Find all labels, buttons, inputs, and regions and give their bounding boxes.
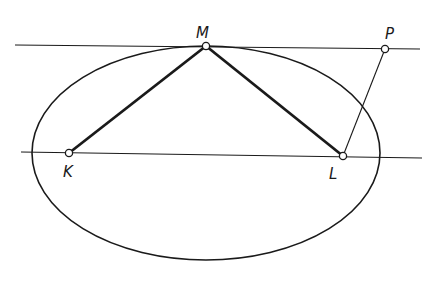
point-K-marker (65, 149, 72, 156)
lower-line-through-foci (21, 152, 422, 158)
segment-ML (206, 46, 343, 156)
segment-KM (69, 46, 206, 153)
point-L-marker (339, 152, 346, 159)
point-M-label: M (196, 24, 209, 42)
point-P-label: P (385, 25, 395, 43)
point-P-marker (381, 45, 388, 52)
point-M-marker (202, 42, 209, 49)
point-L-label: L (329, 165, 337, 183)
point-K-label: K (63, 163, 74, 181)
ellipse-diagram: MPKL (0, 0, 443, 286)
